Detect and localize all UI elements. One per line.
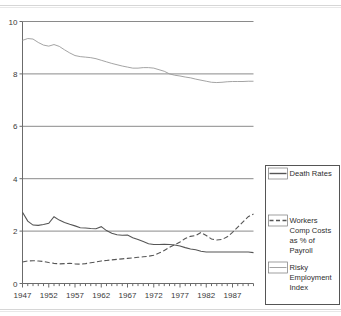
legend-label: as % of: [290, 236, 316, 245]
y-tick-label: 4: [13, 175, 18, 184]
legend-label: Risky: [290, 263, 309, 272]
y-tick-label: 8: [13, 70, 18, 79]
y-tick-label: 2: [13, 227, 18, 236]
x-tick-label: 1967: [119, 291, 137, 300]
x-tick-label: 1982: [197, 291, 215, 300]
x-tick-label: 1987: [224, 291, 242, 300]
x-tick-label: 1962: [92, 291, 110, 300]
grid-lines: [23, 22, 254, 232]
chart-page: 0246810 19471952195719621967197219771982…: [0, 0, 341, 316]
x-tick-label: 1972: [145, 291, 163, 300]
legend-label: Workers: [290, 216, 318, 225]
legend-label: Index: [290, 283, 309, 292]
y-tick-label: 10: [9, 18, 18, 27]
series-lines: [23, 39, 254, 265]
series-line: [23, 212, 254, 252]
x-tick-label: 1947: [14, 291, 32, 300]
y-tick-label: 0: [13, 280, 18, 289]
legend-label: Payroll: [290, 246, 314, 255]
legend-label: Death Rates: [290, 169, 332, 178]
x-tick-label: 1957: [66, 291, 84, 300]
legend-label: Comp Costs: [290, 226, 332, 235]
x-axis-tick-labels: 194719521957196219671972197719821987: [14, 291, 242, 300]
y-axis-tick-labels: 0246810: [9, 18, 18, 289]
x-tick-label: 1952: [40, 291, 58, 300]
series-line: [23, 39, 254, 83]
y-tick-label: 6: [13, 122, 18, 131]
legend-box[interactable]: Death RatesWorkersComp Costsas % ofPayro…: [266, 166, 340, 305]
legend-label: Employment: [290, 273, 333, 282]
x-axis-ticks: [23, 284, 254, 288]
line-chart: 0246810 19471952195719621967197219771982…: [0, 0, 341, 316]
x-tick-label: 1977: [171, 291, 189, 300]
